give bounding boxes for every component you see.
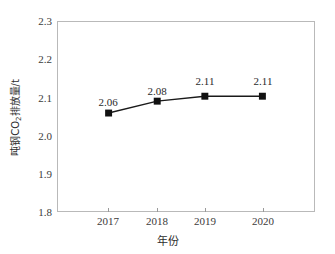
data-point-label-text: 2.11 [196, 75, 215, 87]
data-point-marker [105, 110, 112, 117]
x-tick-text: 2020 [252, 215, 274, 227]
y-axis-title: 吨钢CO2排放量/t [7, 58, 22, 178]
x-axis-title: 年份 [0, 232, 335, 248]
y-tick-text: 2.1 [38, 92, 52, 104]
x-tick-mark [205, 208, 206, 212]
series-line-co2 [58, 22, 314, 211]
plot-frame [57, 21, 315, 212]
x-tick-mark [108, 208, 109, 212]
y-axis-title-pre: 吨钢CO [10, 121, 21, 156]
data-point-label: 2.08 [134, 86, 180, 97]
y-tick-text: 2.0 [38, 130, 52, 142]
data-point-marker [154, 98, 161, 105]
y-tick-text: 2.2 [38, 53, 52, 65]
y-tick-text: 1.8 [38, 206, 52, 218]
x-tick-text: 2017 [97, 215, 119, 227]
data-point-label-text: 2.08 [147, 85, 166, 97]
y-tick-text: 1.9 [38, 168, 52, 180]
y-tick-label: 2.3 [0, 16, 52, 27]
plot-area [58, 22, 314, 211]
data-point-marker [201, 93, 208, 100]
x-tick-label: 2019 [182, 216, 228, 227]
y-tick-label: 1.8 [0, 207, 52, 218]
series-polyline [109, 96, 263, 113]
x-axis-title-text: 年份 [157, 235, 179, 248]
x-tick-text: 2019 [194, 215, 216, 227]
y-axis-title-subscript: 2 [15, 116, 23, 120]
data-point-label-text: 2.11 [254, 75, 273, 87]
x-tick-mark [157, 208, 158, 212]
x-tick-label: 2018 [134, 216, 180, 227]
x-tick-label: 2017 [85, 216, 131, 227]
data-point-marker [259, 93, 266, 100]
data-point-label: 2.11 [182, 76, 228, 87]
y-axis-title-post: 排放量/t [10, 79, 21, 116]
data-point-label-text: 2.06 [98, 96, 117, 108]
data-point-label: 2.06 [85, 97, 131, 108]
x-tick-label: 2020 [240, 216, 286, 227]
y-tick-text: 2.3 [38, 15, 52, 27]
data-point-label: 2.11 [240, 76, 286, 87]
chart-figure: 2.3 2.2 2.1 2.0 1.9 1.8 [0, 0, 335, 254]
x-tick-mark [263, 208, 264, 212]
x-tick-text: 2018 [146, 215, 168, 227]
